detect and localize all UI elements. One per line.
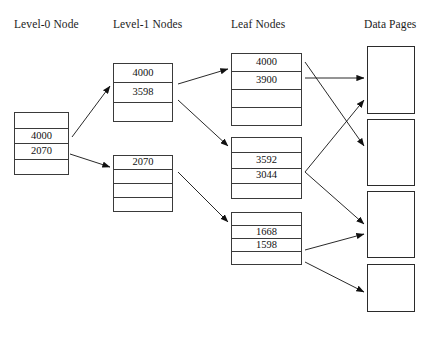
- leaf-node-2: 35923044: [231, 137, 302, 199]
- diagram-canvas: Level-0 NodeLevel-1 NodesLeaf NodesData …: [0, 0, 429, 345]
- level-0-node-entry-4: [15, 160, 68, 175]
- level-1-node-lower: 2070: [113, 155, 173, 212]
- leaf-node-2-entry-3: 3044: [232, 169, 301, 184]
- edge-level1-upper-to-leaf2: [178, 100, 228, 146]
- edge-level0-to-level1-upper: [72, 86, 110, 137]
- level-1-node-lower-entry-3: [114, 184, 172, 198]
- leaf-node-2-entry-1: [232, 138, 301, 153]
- data-page-1: [367, 46, 415, 114]
- level-1-node-upper-entry-1: 4000: [114, 64, 172, 83]
- edge-level1-upper-to-leaf1: [178, 69, 228, 84]
- edge-leaf2-to-page3: [305, 172, 364, 224]
- leaf-node-1-entry-2: 3900: [232, 72, 301, 90]
- leaf-node-3-entry-3: 1598: [232, 239, 301, 252]
- leaf-node-2-entry-2: 3592: [232, 153, 301, 168]
- edge-leaf2-to-page1: [305, 100, 364, 172]
- edge-level0-to-level1-lower: [70, 154, 110, 167]
- leaf-node-3-entry-4: [232, 252, 301, 264]
- level-1-node-lower-entry-2: [114, 170, 172, 184]
- level-0-node-entry-2: 4000: [15, 129, 68, 145]
- data-page-3: [367, 191, 415, 258]
- level-1-node-lower-entry-1: 2070: [114, 156, 172, 170]
- edge-leaf1-to-page2: [305, 62, 364, 146]
- edge-leaf3-to-page3: [305, 234, 364, 250]
- edge-leaf3-to-page4: [305, 262, 364, 292]
- leaf-node-1-entry-3: [232, 90, 301, 108]
- level-0-node-entry-3: 2070: [15, 144, 68, 160]
- leaf-node-3-entry-2: 1668: [232, 226, 301, 239]
- leaf-node-1-entry-1: 4000: [232, 54, 301, 72]
- level-1-node-lower-entry-4: [114, 198, 172, 211]
- leaf-node-2-entry-4: [232, 184, 301, 198]
- level-1-node-upper: 40003598: [113, 63, 173, 122]
- leaf-node-3-entry-1: [232, 213, 301, 226]
- level-1-node-upper-entry-3: [114, 103, 172, 121]
- leaf-node-3: 16681598: [231, 212, 302, 265]
- leaf-node-1-entry-4: [232, 108, 301, 125]
- level-0-node-entry-1: [15, 113, 68, 129]
- data-page-4: [367, 264, 415, 312]
- edge-level1-lower-to-leaf3: [178, 172, 228, 222]
- level-1-node-upper-entry-2: 3598: [114, 83, 172, 102]
- leaf-node-1: 40003900: [231, 53, 302, 126]
- data-page-2: [367, 119, 415, 186]
- level-0-node: 40002070: [14, 112, 69, 175]
